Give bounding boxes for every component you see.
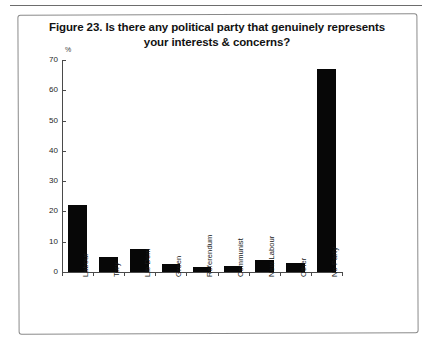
y-tick-mark	[62, 121, 66, 122]
y-tick-mark	[62, 60, 66, 61]
y-tick-mark	[62, 242, 66, 243]
x-tick-mark	[62, 272, 63, 276]
x-tick-mark	[93, 272, 94, 276]
x-category-label: Green	[174, 256, 183, 277]
y-tick-mark	[62, 90, 66, 91]
y-tick-mark	[62, 211, 66, 212]
x-category-label: Referendum	[205, 235, 214, 277]
x-tick-mark	[280, 272, 281, 276]
y-tick-label: 70	[38, 55, 58, 64]
x-tick-mark	[249, 272, 250, 276]
x-tick-mark	[218, 272, 219, 276]
bar	[317, 69, 336, 272]
x-tick-mark	[186, 272, 187, 276]
x-category-label: No Party	[330, 247, 339, 277]
x-category-label: Lib Dem	[143, 248, 152, 277]
chart-title-line-2: your interests & concerns?	[30, 35, 404, 50]
x-tick-mark	[342, 272, 343, 276]
x-tick-mark	[311, 272, 312, 276]
y-tick-label: 10	[38, 237, 58, 246]
y-tick-label: 40	[38, 146, 58, 155]
y-axis-unit-label: %	[65, 46, 71, 53]
y-tick-mark	[62, 181, 66, 182]
x-category-label: Labour	[81, 253, 90, 277]
y-tick-label: 0	[38, 267, 58, 276]
x-category-label: New Labour	[267, 236, 276, 277]
y-tick-label: 60	[38, 85, 58, 94]
y-tick-label: 20	[38, 206, 58, 215]
chart-title-line-1: Figure 23. Is there any political party …	[30, 20, 404, 35]
x-category-label: Communist	[236, 238, 245, 277]
page-top-rule	[10, 5, 422, 6]
y-tick-label: 30	[38, 176, 58, 185]
x-category-label: Other	[299, 258, 308, 277]
x-tick-mark	[155, 272, 156, 276]
x-tick-mark	[124, 272, 125, 276]
chart-title: Figure 23. Is there any political party …	[30, 20, 404, 50]
x-category-label: Tory	[112, 262, 121, 277]
figure-container: Figure 23. Is there any political party …	[18, 14, 416, 332]
y-tick-mark	[62, 151, 66, 152]
y-tick-label: 50	[38, 116, 58, 125]
